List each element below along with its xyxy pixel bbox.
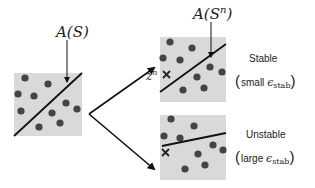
perturbed-point-label: zn — [145, 68, 157, 83]
unstable-panel: Unstable (large ϵstab) — [160, 115, 294, 180]
stable-panel: A(Sn) zn Stable (small ϵstab) — [145, 4, 296, 102]
perturbed-model-label: A(Sn) — [191, 4, 232, 23]
unstable-title: Unstable — [246, 129, 286, 140]
arrow-to-stable — [89, 68, 154, 114]
arrow-to-unstable — [89, 114, 154, 169]
stability-diagram: A(S) A(Sn) zn Stable (small — [0, 0, 315, 188]
original-panel: A(S) — [14, 23, 89, 136]
stable-title: Stable — [249, 53, 278, 64]
stable-epsilon-label: (small ϵstab) — [235, 72, 296, 90]
original-model-label: A(S) — [54, 23, 89, 41]
unstable-epsilon-label: (large ϵstab) — [235, 148, 294, 166]
branch-arrows — [89, 68, 154, 169]
